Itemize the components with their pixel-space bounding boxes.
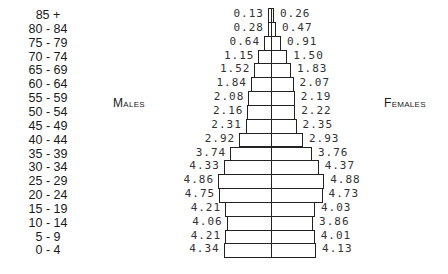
age-group-label: 65 - 69 [18, 63, 78, 77]
female-value-label: 0.47 [282, 21, 313, 35]
age-group-label: 25 - 29 [18, 174, 78, 188]
male-value-label: 0.28 [233, 21, 264, 35]
male-value-label: 1.52 [220, 62, 251, 76]
male-bar [251, 77, 272, 92]
male-value-label: 2.92 [205, 132, 236, 146]
female-bar [271, 36, 281, 51]
female-value-label: 4.37 [325, 159, 356, 173]
female-bar [271, 91, 295, 106]
female-value-label: 3.76 [318, 146, 349, 160]
females-label: Females [384, 96, 426, 110]
male-bar [225, 202, 272, 217]
age-group-label: 50 - 54 [18, 105, 78, 119]
male-bar [224, 160, 272, 175]
male-value-label: 2.08 [214, 90, 245, 104]
male-bar [247, 105, 272, 120]
male-bar [239, 133, 272, 148]
male-value-label: 4.06 [192, 215, 223, 229]
female-value-label: 4.73 [329, 187, 360, 201]
age-group-label: 20 - 24 [18, 188, 78, 202]
male-value-label: 4.33 [189, 159, 220, 173]
age-group-label: 85 + [18, 8, 78, 22]
female-bar [271, 63, 291, 78]
male-bar [224, 243, 272, 258]
male-value-label: 3.74 [196, 146, 227, 160]
female-value-label: 4.88 [330, 173, 361, 187]
male-bar [248, 91, 272, 106]
female-bar [271, 160, 319, 175]
age-group-label: 35 - 39 [18, 147, 78, 161]
female-bar [271, 243, 316, 258]
female-bar [271, 50, 287, 65]
age-group-label: 40 - 44 [18, 133, 78, 147]
age-group-label: 10 - 14 [18, 216, 78, 230]
male-value-label: 0.64 [230, 35, 261, 49]
male-value-label: 4.75 [185, 187, 216, 201]
female-bar [271, 133, 303, 148]
female-value-label: 0.26 [280, 7, 311, 21]
female-value-label: 2.22 [301, 104, 332, 118]
male-bar [258, 50, 272, 65]
female-value-label: 4.01 [321, 229, 352, 243]
center-axis-line [271, 8, 272, 257]
male-bar [218, 174, 272, 189]
female-bar [271, 174, 324, 189]
female-value-label: 3.86 [319, 215, 350, 229]
female-bar [271, 202, 315, 217]
male-bar [225, 230, 272, 245]
age-group-label: 55 - 59 [18, 91, 78, 105]
female-bar [271, 119, 297, 134]
male-value-label: 4.34 [189, 242, 220, 256]
age-group-label: 75 - 79 [18, 36, 78, 50]
male-value-label: 2.16 [213, 104, 244, 118]
age-group-label: 70 - 74 [18, 50, 78, 64]
female-value-label: 4.03 [321, 201, 352, 215]
male-value-label: 0.13 [234, 7, 265, 21]
female-value-label: 2.19 [301, 90, 332, 104]
female-value-label: 4.13 [322, 242, 353, 256]
female-bar [271, 216, 313, 231]
population-pyramid-chart: Males Females 85 +0.130.2680 - 840.280.4… [0, 0, 448, 274]
age-group-label: 0 - 4 [18, 243, 78, 257]
males-label: Males [113, 96, 145, 110]
age-group-label: 15 - 19 [18, 202, 78, 216]
male-value-label: 4.21 [191, 229, 222, 243]
age-group-label: 30 - 34 [18, 160, 78, 174]
male-bar [227, 216, 272, 231]
female-value-label: 2.93 [309, 132, 340, 146]
female-bar [271, 147, 312, 162]
female-value-label: 1.50 [293, 49, 324, 63]
female-bar [271, 105, 295, 120]
male-value-label: 4.86 [184, 173, 215, 187]
male-bar [246, 119, 272, 134]
female-value-label: 2.07 [300, 76, 331, 90]
female-value-label: 0.91 [287, 35, 318, 49]
age-group-label: 45 - 49 [18, 119, 78, 133]
male-bar [254, 63, 272, 78]
male-value-label: 4.21 [191, 201, 222, 215]
female-value-label: 2.35 [303, 118, 334, 132]
female-bar [271, 188, 323, 203]
male-value-label: 2.31 [211, 118, 242, 132]
male-value-label: 1.84 [216, 76, 247, 90]
age-group-label: 5 - 9 [18, 230, 78, 244]
age-group-label: 60 - 64 [18, 77, 78, 91]
female-bar [271, 77, 294, 92]
female-bar [271, 230, 315, 245]
age-group-label: 80 - 84 [18, 22, 78, 36]
male-bar [219, 188, 272, 203]
female-value-label: 1.83 [297, 62, 328, 76]
male-bar [230, 147, 272, 162]
male-value-label: 1.15 [224, 49, 255, 63]
